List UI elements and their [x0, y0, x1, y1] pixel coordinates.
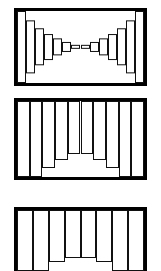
bar: [44, 34, 53, 60]
bar: [49, 210, 65, 262]
panel-1-plot-area: [17, 11, 144, 83]
bar: [135, 11, 144, 83]
bar: [112, 210, 128, 271]
bar: [68, 101, 81, 154]
bar: [62, 42, 71, 52]
bar: [42, 101, 55, 168]
bar: [35, 28, 44, 65]
bar: [81, 210, 97, 258]
bar: [119, 101, 132, 177]
bar: [17, 11, 26, 83]
panel-1-frame: [14, 8, 147, 86]
bar: [96, 210, 112, 262]
bar: [71, 45, 80, 49]
panel-3-plot-area: [17, 210, 144, 271]
bar: [126, 20, 135, 73]
bar: [53, 38, 62, 55]
bar: [131, 101, 144, 177]
bar: [81, 45, 90, 49]
bar: [26, 20, 35, 73]
bar: [99, 38, 108, 55]
bar: [117, 28, 126, 65]
figure-panel-stack: [0, 0, 161, 271]
bar: [106, 101, 119, 168]
bar: [90, 42, 99, 52]
bar: [55, 101, 68, 160]
bar: [81, 101, 94, 154]
panel-2-frame: [14, 98, 147, 180]
panel-2-plot-area: [17, 101, 144, 177]
bar: [17, 210, 33, 271]
bar: [30, 101, 43, 177]
chart-panel-2: [0, 96, 161, 182]
bar: [108, 34, 117, 60]
bar: [93, 101, 106, 160]
chart-panel-1: [0, 6, 161, 88]
chart-panel-3: [0, 205, 161, 271]
panel-3-frame: [14, 207, 147, 271]
bar: [128, 210, 144, 271]
bar: [17, 101, 30, 177]
bar: [33, 210, 49, 271]
bar: [65, 210, 81, 258]
